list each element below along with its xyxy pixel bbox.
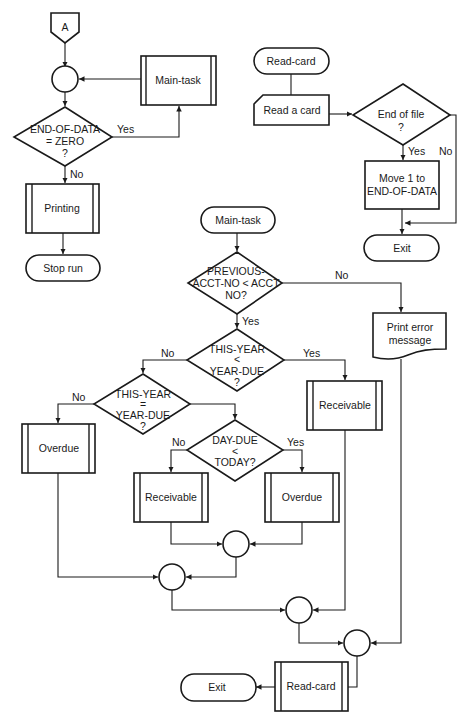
process-receivable-1: Receivable <box>307 381 382 430</box>
terminal-read-card-start: Read-card <box>254 48 329 74</box>
svg-text:Read a card: Read a card <box>263 104 320 116</box>
svg-text:Read-card: Read-card <box>286 680 335 692</box>
process-move-1-to-end-of-data: Move 1 to END-OF-DATA <box>365 161 439 209</box>
process-receivable-2: Receivable <box>134 473 208 522</box>
svg-text:Receivable: Receivable <box>145 491 197 503</box>
svg-text:Receivable: Receivable <box>319 399 371 411</box>
svg-text:END-OF-DATA: END-OF-DATA <box>30 123 100 135</box>
svg-text:Yes: Yes <box>408 145 425 157</box>
svg-text:Overdue: Overdue <box>282 491 322 503</box>
terminal-read-card-exit: Exit <box>364 235 439 261</box>
entry-connector-a: A <box>51 13 79 43</box>
svg-text:?: ? <box>398 121 404 133</box>
junction-loop <box>52 66 78 92</box>
terminal-main-task-start: Main-task <box>201 207 275 233</box>
svg-text:End of file: End of file <box>378 108 425 120</box>
svg-text:No: No <box>439 145 453 157</box>
svg-text:PREVIOUS-: PREVIOUS- <box>207 265 265 277</box>
flowchart-canvas: A END-OF-DATA = ZERO ? Yes Main-task No … <box>0 0 470 727</box>
decision-this-year-eq-year-due: THIS-YEAR = YEAR-DUE ? <box>94 374 190 434</box>
svg-text:Overdue: Overdue <box>39 442 79 454</box>
svg-text:Exit: Exit <box>208 681 226 693</box>
svg-text:<: < <box>234 353 240 365</box>
svg-text:Print error: Print error <box>387 321 434 333</box>
document-print-error-message: Print error message <box>373 313 446 359</box>
svg-text:Yes: Yes <box>287 436 304 448</box>
decision-end-of-file: End of file ? <box>353 84 450 145</box>
svg-text:No: No <box>70 168 84 180</box>
process-read-card-call: Read-card <box>275 662 348 711</box>
svg-text:No: No <box>72 391 86 403</box>
junction-this-year <box>286 597 312 623</box>
junction-day-due <box>223 531 249 557</box>
decision-end-of-data: END-OF-DATA = ZERO ? <box>14 107 112 166</box>
process-main-task: Main-task <box>141 56 216 105</box>
svg-text:TODAY?: TODAY? <box>214 456 255 468</box>
svg-text:ACCT-NO < ACCT: ACCT-NO < ACCT <box>192 277 280 289</box>
svg-text:?: ? <box>234 376 240 388</box>
svg-text:?: ? <box>62 147 68 159</box>
junction-year <box>159 564 185 590</box>
decision-this-year-lt-year-due: THIS-YEAR < YEAR-DUE ? <box>187 329 284 391</box>
svg-text:Stop run: Stop run <box>43 262 83 274</box>
svg-text:?: ? <box>140 420 146 432</box>
svg-text:message: message <box>389 334 432 346</box>
svg-text:A: A <box>61 21 68 33</box>
svg-text:No: No <box>335 269 349 281</box>
process-overdue-2: Overdue <box>265 473 339 522</box>
decision-day-due-lt-today: DAY-DUE < TODAY? <box>187 420 283 481</box>
svg-text:= ZERO: = ZERO <box>46 135 84 147</box>
svg-text:NO?: NO? <box>225 289 247 301</box>
svg-text:Printing: Printing <box>44 202 80 214</box>
input-read-a-card: Read a card <box>254 95 329 125</box>
decision-previous-acct-no: PREVIOUS- ACCT-NO < ACCT NO? <box>188 252 282 314</box>
svg-text:No: No <box>161 347 175 359</box>
svg-text:Exit: Exit <box>393 242 411 254</box>
svg-text:Yes: Yes <box>242 315 259 327</box>
svg-text:Yes: Yes <box>303 347 320 359</box>
svg-text:Yes: Yes <box>117 123 134 135</box>
terminal-main-task-exit: Exit <box>181 674 256 701</box>
svg-text:END-OF-DATA: END-OF-DATA <box>367 185 437 197</box>
process-overdue-1: Overdue <box>22 424 95 473</box>
svg-text:Main-task: Main-task <box>155 74 201 86</box>
svg-text:Read-card: Read-card <box>266 55 315 67</box>
svg-text:Move 1 to: Move 1 to <box>379 172 425 184</box>
terminal-stop-run: Stop run <box>26 255 100 281</box>
svg-text:No: No <box>172 436 186 448</box>
process-printing: Printing <box>26 184 99 233</box>
junction-final <box>344 630 370 656</box>
svg-text:Main-task: Main-task <box>215 214 261 226</box>
